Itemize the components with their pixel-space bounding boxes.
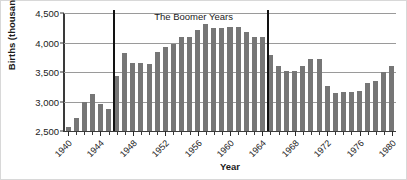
x-tick-label: 1972 [312, 138, 333, 159]
bar [389, 66, 394, 131]
bar [276, 66, 281, 131]
bar [219, 28, 224, 131]
bar [244, 32, 249, 131]
x-tick-mark [117, 131, 118, 135]
x-tick-mark [157, 131, 158, 135]
x-tick-label: 1948 [118, 138, 139, 159]
bar [365, 83, 370, 131]
x-tick-mark [230, 131, 231, 136]
bar [106, 109, 111, 131]
x-tick-mark [149, 131, 150, 135]
bar [195, 30, 200, 131]
x-tick-mark [368, 131, 369, 135]
bar [341, 92, 346, 131]
x-tick-mark [384, 131, 385, 135]
x-tick-mark [351, 131, 352, 135]
x-tick-label: 1960 [215, 138, 236, 159]
bar [357, 91, 362, 131]
x-tick-mark [279, 131, 280, 135]
bar [236, 27, 241, 131]
x-tick-label: 1940 [53, 138, 74, 159]
bar [163, 47, 168, 131]
bar [317, 59, 322, 131]
x-tick-label: 1968 [280, 138, 301, 159]
x-tick-mark [392, 131, 393, 136]
bar [333, 93, 338, 131]
x-tick-mark [198, 131, 199, 136]
bar [308, 59, 313, 131]
x-tick-mark [360, 131, 361, 136]
x-tick-mark [335, 131, 336, 135]
births-bar-chart-figure: Births (thousands) 2,5003,0003,5004,0004… [0, 0, 407, 180]
chart-annotation-label: The Boomer Years [154, 11, 233, 22]
x-tick-mark [68, 131, 69, 136]
era-marker-boomer-end [267, 10, 269, 131]
x-tick-mark [206, 131, 207, 135]
x-axis-title: Year [64, 161, 396, 172]
bar [373, 81, 378, 131]
x-tick-mark [246, 131, 247, 135]
y-tick-label: 3,500 [35, 67, 59, 78]
y-tick-label: 4,000 [35, 37, 59, 48]
x-tick-mark [254, 131, 255, 135]
x-tick-mark [84, 131, 85, 135]
x-tick-mark [133, 131, 134, 136]
x-tick-mark [376, 131, 377, 135]
plot-area: 2,5003,0003,5004,0004,500 The Boomer Yea… [64, 13, 396, 131]
x-tick-mark [190, 131, 191, 135]
bar [227, 27, 232, 131]
bar [187, 37, 192, 131]
bar [155, 52, 160, 131]
x-tick-mark [327, 131, 328, 136]
bar [325, 86, 330, 131]
bar [138, 63, 143, 131]
bar [130, 63, 135, 131]
x-tick-mark [125, 131, 126, 135]
x-tick-mark [222, 131, 223, 135]
x-tick-mark [181, 131, 182, 135]
x-tick-mark [165, 131, 166, 136]
bar [381, 72, 386, 131]
x-tick-label: 1980 [377, 138, 398, 159]
x-tick-mark [311, 131, 312, 135]
bar [211, 28, 216, 131]
x-tick-mark [92, 131, 93, 135]
y-axis-title: Births (thousands) [5, 0, 19, 83]
y-tick-label: 4,500 [35, 8, 59, 19]
x-tick-mark [319, 131, 320, 135]
x-tick-mark [100, 131, 101, 136]
x-tick-mark [173, 131, 174, 135]
bar [252, 37, 257, 131]
bar [349, 92, 354, 131]
x-tick-mark [76, 131, 77, 135]
x-tick-mark [238, 131, 239, 135]
x-tick-mark [109, 131, 110, 135]
bar [82, 102, 87, 131]
bar [300, 66, 305, 131]
x-tick-label: 1944 [85, 138, 106, 159]
x-tick-mark [262, 131, 263, 136]
x-tick-mark [270, 131, 271, 135]
bar [171, 44, 176, 131]
bar [98, 104, 103, 131]
bar [284, 71, 289, 131]
y-tick-label: 3,000 [35, 96, 59, 107]
bar [260, 37, 265, 131]
bar [147, 64, 152, 131]
bar [90, 94, 95, 131]
bar [203, 24, 208, 131]
x-tick-label: 1952 [150, 138, 171, 159]
x-tick-mark [295, 131, 296, 136]
bar [292, 71, 297, 131]
bar [74, 118, 79, 131]
era-marker-boomer-start [113, 10, 115, 131]
bar [179, 37, 184, 131]
x-tick-label: 1956 [182, 138, 203, 159]
x-tick-label: 1964 [247, 138, 268, 159]
y-tick-label: 2,500 [35, 126, 59, 137]
x-tick-mark [214, 131, 215, 135]
x-tick-mark [287, 131, 288, 135]
bar [122, 53, 127, 131]
x-tick-mark [343, 131, 344, 135]
x-tick-mark [141, 131, 142, 135]
